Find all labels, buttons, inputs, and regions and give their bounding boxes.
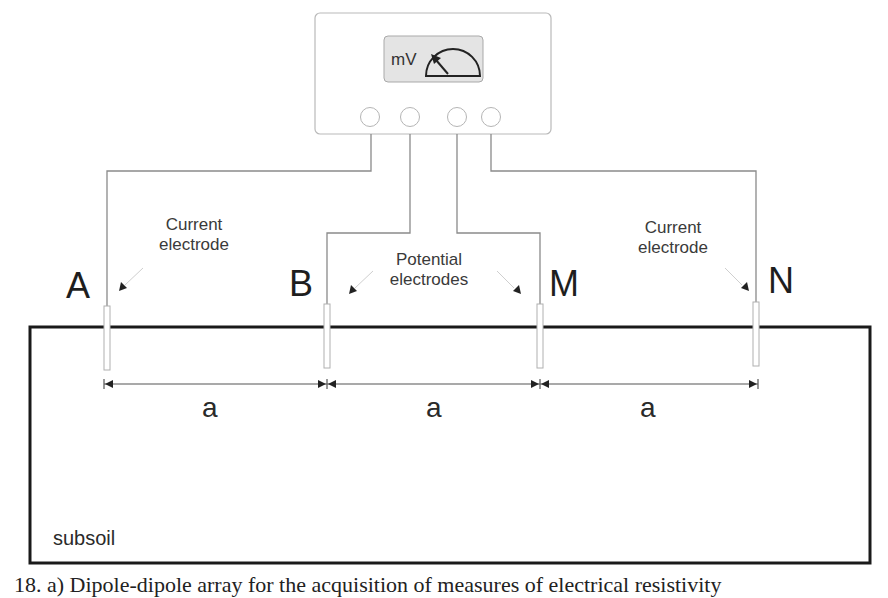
terminal-1 bbox=[361, 108, 380, 127]
subsoil-box bbox=[30, 327, 870, 563]
terminal-4 bbox=[482, 108, 501, 127]
electrode-pin-n bbox=[753, 302, 759, 366]
electrode-label-a: A bbox=[66, 268, 90, 304]
electrode-label-b: B bbox=[289, 266, 313, 302]
wire-n bbox=[491, 134, 756, 330]
electrode-label-n: N bbox=[768, 263, 794, 299]
annotation-potential-electrodes: Potential electrodes bbox=[381, 250, 477, 290]
arrow-a-icon bbox=[119, 282, 127, 291]
electrode-pin-a bbox=[104, 306, 110, 370]
arrow-n-icon bbox=[741, 282, 749, 291]
annotation-current-electrode-left: Current electrode bbox=[152, 215, 236, 255]
electrode-label-m: M bbox=[549, 266, 579, 302]
arrow-m-icon bbox=[513, 285, 521, 294]
electrode-pin-m bbox=[537, 304, 543, 368]
spacing-dimension bbox=[104, 379, 758, 389]
annotation-current-electrode-right: Current electrode bbox=[631, 218, 715, 258]
millivoltmeter bbox=[315, 13, 551, 134]
spacing-label-1: a bbox=[202, 394, 218, 422]
spacing-label-2: a bbox=[426, 394, 442, 422]
terminal-2 bbox=[401, 108, 420, 127]
spacing-label-3: a bbox=[640, 394, 656, 422]
terminal-3 bbox=[448, 108, 467, 127]
arrow-b-icon bbox=[349, 285, 357, 294]
figure-caption: 18. a) Dipole-dipole array for the acqui… bbox=[14, 572, 721, 598]
subsoil-label: subsoil bbox=[53, 527, 115, 549]
meter-unit-label: mV bbox=[391, 51, 417, 69]
wire-b bbox=[327, 134, 410, 332]
wire-m bbox=[457, 134, 540, 332]
electrode-pin-b bbox=[324, 304, 330, 368]
